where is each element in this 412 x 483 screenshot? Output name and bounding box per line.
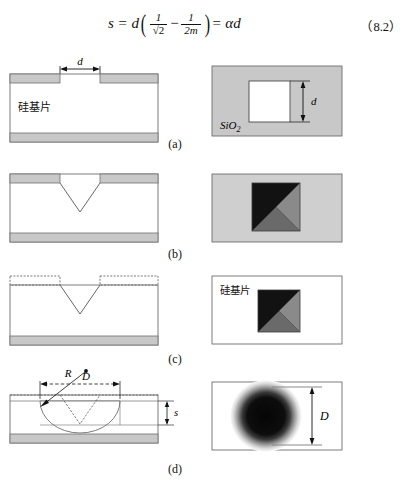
panel-a-oxide-bottom (10, 133, 158, 142)
fraction-two: 12m (181, 12, 200, 36)
panel-c-pyramid-pit (258, 290, 300, 332)
panel-d-label-s: s (174, 407, 178, 418)
panel-d-dimension-s: s (158, 401, 178, 425)
panel-a-substrate-label: 硅基片 (18, 101, 51, 114)
panel-c-top-view: 硅基片 (210, 272, 400, 354)
panel-c-substrate-label: 硅基片 (220, 284, 250, 296)
panel-b-cross-section (8, 170, 176, 250)
panel-a-label-d-vertical: d (311, 95, 317, 107)
figure-container: s = d(1√2−12m)= αd （8.2） d 硅基片 (0, 0, 412, 483)
panel-c-oxide-bottom (10, 336, 158, 345)
equation-expression: s = d(1√2−12m)= αd (108, 10, 241, 40)
panel-a-label-d: d (77, 55, 83, 67)
panel-b-oxide-left (10, 174, 60, 183)
panel-b-substrate-body (10, 174, 158, 242)
panel-b-oxide-right (100, 174, 158, 183)
fraction-one-denominator: √2 (150, 24, 168, 37)
panel-c-cross-section (8, 272, 176, 354)
panel-d-oxide-bottom (10, 434, 158, 443)
panel-a-window-opening (249, 81, 290, 122)
panel-d-label-R: R (64, 367, 72, 379)
panel-a-top-view: d SiO2 (210, 62, 400, 144)
equation-row: s = d(1√2−12m)= αd （8.2） (0, 4, 412, 44)
equation-rhs: = αd (211, 15, 240, 31)
panel-d-cross-section: D R s (8, 368, 188, 468)
caption-b: (b) (155, 247, 195, 262)
fraction-two-denominator: 2m (181, 24, 200, 37)
panel-d-top-view: D (210, 378, 400, 464)
caption-c: (c) (155, 352, 195, 367)
panel-c-removed-mask-outline (10, 276, 158, 285)
panel-a-oxide-right (100, 74, 158, 83)
panel-b-oxide-bottom (10, 233, 158, 242)
fraction-one: 1√2 (150, 12, 168, 36)
fraction-two-numerator: 1 (181, 12, 200, 24)
caption-d: (d) (155, 462, 195, 477)
panel-d-etched-circle (230, 380, 302, 452)
caption-a: (a) (155, 137, 195, 152)
fraction-one-numerator: 1 (150, 12, 168, 24)
panel-a-oxide-left (10, 74, 60, 83)
panel-d-label-D-vertical: D (319, 409, 329, 423)
equation-number: （8.2） (360, 16, 402, 35)
paren-open: ( (141, 9, 146, 39)
panel-a-cross-section: d 硅基片 (8, 56, 176, 146)
paren-close: ) (204, 9, 209, 39)
minus-sign: − (169, 15, 179, 31)
panel-b-pyramid-pit (252, 183, 300, 231)
equation-lhs: s = d (108, 15, 139, 31)
panel-b-top-view (210, 170, 400, 250)
